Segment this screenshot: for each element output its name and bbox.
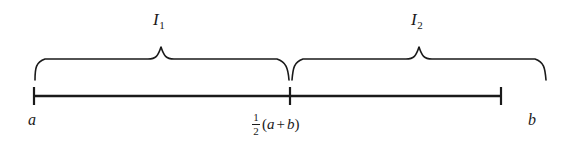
midpoint-expression: (a+b)	[262, 117, 299, 132]
brace-left	[35, 47, 289, 80]
close-paren: )	[294, 116, 299, 132]
brace-label-i2-base: I	[411, 10, 417, 29]
brace-label-i2-subscript: 2	[417, 19, 423, 31]
interval-bisection-diagram: I1 I2 a b 1 2 (a+b)	[0, 0, 569, 143]
brace-label-i1-base: I	[153, 10, 159, 29]
endpoint-label-a: a	[28, 112, 36, 128]
fraction-one-half: 1 2	[252, 112, 260, 137]
brace-right	[292, 47, 546, 80]
brace-label-i2: I2	[411, 11, 423, 31]
midpoint-label: 1 2 (a+b)	[252, 112, 299, 137]
midpoint-term-a: a	[267, 116, 275, 132]
brace-label-i1: I1	[153, 11, 165, 31]
plus-operator: +	[277, 116, 285, 132]
brace-label-i1-subscript: 1	[159, 19, 165, 31]
endpoint-label-b: b	[528, 112, 536, 128]
fraction-numerator: 1	[252, 112, 260, 124]
fraction-denominator: 2	[252, 126, 260, 138]
